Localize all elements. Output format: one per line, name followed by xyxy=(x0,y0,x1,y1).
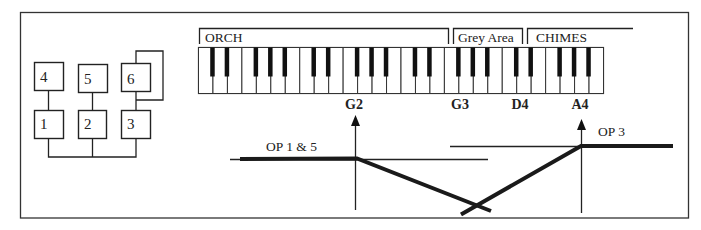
piano-keyboard xyxy=(199,48,604,94)
black-key xyxy=(210,48,215,77)
arrow-up-icon xyxy=(351,115,360,126)
note-labels: G2 G3 D4 A4 xyxy=(345,97,589,112)
black-key xyxy=(456,48,461,77)
operator-label: 2 xyxy=(84,116,92,132)
black-key xyxy=(283,48,288,77)
operator-label: 3 xyxy=(127,116,135,132)
black-key xyxy=(355,48,360,77)
zone-label-grey-area: Grey Area xyxy=(458,30,514,45)
black-key xyxy=(311,48,316,77)
zone-label-orch: ORCH xyxy=(205,30,243,45)
op15-curve xyxy=(240,159,491,212)
operator-label: 5 xyxy=(84,71,92,87)
keyboard-scaling-diagram: 4 5 6 1 2 3 ORCH Grey Area CHIMES xyxy=(0,0,701,230)
operator-1: 1 xyxy=(35,111,64,139)
black-key xyxy=(528,48,533,77)
white-key xyxy=(329,48,343,94)
black-key xyxy=(254,48,259,77)
operator-label: 6 xyxy=(127,71,135,87)
black-key xyxy=(572,48,577,77)
zone-label-chimes: CHIMES xyxy=(536,30,587,45)
operator-label: 4 xyxy=(40,69,48,85)
black-key xyxy=(268,48,273,77)
arrow-up-icon xyxy=(577,119,586,130)
operator-3: 3 xyxy=(122,111,151,139)
white-key xyxy=(430,48,444,94)
black-key xyxy=(225,48,230,77)
black-key xyxy=(557,48,562,77)
note-label-g2: G2 xyxy=(345,97,363,112)
operator-2: 2 xyxy=(79,111,107,139)
scaling-curve-op3: OP 3 xyxy=(450,119,673,215)
black-key xyxy=(326,48,331,77)
algorithm-diagram: 4 5 6 1 2 3 xyxy=(35,51,164,157)
black-key xyxy=(413,48,418,77)
black-key xyxy=(471,48,476,77)
white-key xyxy=(227,48,241,94)
op3-curve xyxy=(461,146,673,215)
scaling-curve-op15: OP 1 & 5 xyxy=(230,115,491,211)
black-key xyxy=(586,48,591,77)
note-label-d4: D4 xyxy=(511,97,528,112)
operator-4: 4 xyxy=(35,63,64,91)
black-key xyxy=(369,48,374,77)
note-label-a4: A4 xyxy=(571,97,588,112)
note-label-g3: G3 xyxy=(451,97,469,112)
outer-frame xyxy=(21,13,689,219)
zone-brackets: ORCH Grey Area CHIMES xyxy=(200,29,634,46)
operator-6: 6 xyxy=(122,64,151,92)
white-key xyxy=(589,48,603,94)
operator-5: 5 xyxy=(79,65,108,93)
white-key xyxy=(285,48,299,94)
op15-label: OP 1 & 5 xyxy=(266,139,317,154)
black-key xyxy=(514,48,519,77)
black-key xyxy=(427,48,432,77)
op3-label: OP 3 xyxy=(598,124,625,139)
operator-label: 1 xyxy=(40,116,48,132)
white-keys xyxy=(199,48,604,94)
white-key xyxy=(531,48,545,94)
black-key xyxy=(485,48,490,77)
white-key xyxy=(488,48,502,94)
black-key xyxy=(384,48,389,77)
white-key xyxy=(387,48,401,94)
